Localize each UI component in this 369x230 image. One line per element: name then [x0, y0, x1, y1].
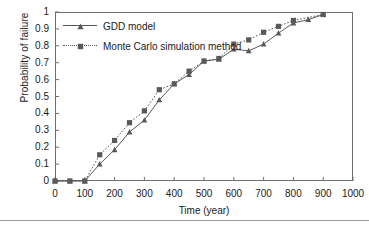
- legend-swatch-dotted-square: [63, 40, 97, 52]
- page-divider: [0, 220, 369, 221]
- y-tick-label: 0.8: [15, 41, 49, 51]
- y-tick-label: 0.6: [15, 75, 49, 85]
- legend-entry-gdd-model: GDD model: [63, 18, 283, 34]
- x-tick-label: 1000: [330, 189, 369, 199]
- y-tick-label: 0.3: [15, 125, 49, 135]
- y-tick-label: 1: [15, 7, 49, 17]
- legend-label-gdd-model: GDD model: [97, 21, 155, 32]
- figure: Probability of failure 00.10.20.30.40.50…: [0, 0, 369, 230]
- y-tick-label: 0.5: [15, 92, 49, 102]
- chart-legend: GDD model Monte Carlo simulation method: [63, 18, 283, 58]
- legend-swatch-solid-triangle: [63, 20, 97, 32]
- y-tick-label: 0.4: [15, 108, 49, 118]
- y-tick-label: 0.2: [15, 142, 49, 152]
- legend-entry-monte-carlo: Monte Carlo simulation method: [63, 38, 283, 54]
- triangle-marker-icon: [77, 23, 84, 30]
- y-tick-label: 0.9: [15, 24, 49, 34]
- y-tick-label: 0: [15, 176, 49, 186]
- y-tick-label: 0.7: [15, 58, 49, 68]
- legend-label-monte-carlo: Monte Carlo simulation method: [97, 41, 241, 52]
- x-axis-title: Time (year): [55, 205, 353, 216]
- y-tick-label: 0.1: [15, 159, 49, 169]
- square-marker-icon: [77, 43, 84, 50]
